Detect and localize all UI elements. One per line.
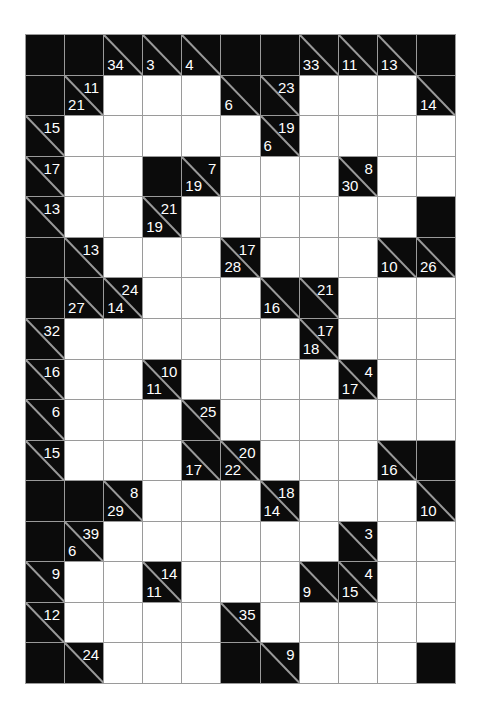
entry-cell[interactable] (182, 603, 220, 643)
entry-cell[interactable] (378, 116, 416, 156)
entry-cell[interactable] (104, 400, 142, 440)
entry-cell[interactable] (65, 319, 103, 359)
entry-cell[interactable] (417, 116, 455, 156)
entry-cell[interactable] (143, 643, 181, 683)
entry-cell[interactable] (261, 522, 299, 562)
entry-cell[interactable] (378, 643, 416, 683)
entry-cell[interactable] (378, 400, 416, 440)
entry-cell[interactable] (339, 197, 377, 237)
entry-cell[interactable] (221, 157, 259, 197)
entry-cell[interactable] (182, 481, 220, 521)
entry-cell[interactable] (261, 319, 299, 359)
entry-cell[interactable] (300, 522, 338, 562)
entry-cell[interactable] (143, 76, 181, 116)
entry-cell[interactable] (104, 157, 142, 197)
entry-cell[interactable] (261, 157, 299, 197)
entry-cell[interactable] (182, 238, 220, 278)
entry-cell[interactable] (261, 441, 299, 481)
entry-cell[interactable] (300, 116, 338, 156)
entry-cell[interactable] (104, 319, 142, 359)
entry-cell[interactable] (339, 643, 377, 683)
entry-cell[interactable] (104, 603, 142, 643)
entry-cell[interactable] (143, 522, 181, 562)
entry-cell[interactable] (378, 157, 416, 197)
entry-cell[interactable] (143, 116, 181, 156)
entry-cell[interactable] (339, 278, 377, 318)
entry-cell[interactable] (300, 360, 338, 400)
entry-cell[interactable] (65, 562, 103, 602)
entry-cell[interactable] (143, 400, 181, 440)
entry-cell[interactable] (221, 197, 259, 237)
entry-cell[interactable] (143, 278, 181, 318)
entry-cell[interactable] (300, 400, 338, 440)
entry-cell[interactable] (339, 400, 377, 440)
entry-cell[interactable] (378, 197, 416, 237)
entry-cell[interactable] (417, 157, 455, 197)
entry-cell[interactable] (300, 643, 338, 683)
entry-cell[interactable] (104, 197, 142, 237)
entry-cell[interactable] (261, 603, 299, 643)
entry-cell[interactable] (378, 76, 416, 116)
entry-cell[interactable] (417, 400, 455, 440)
entry-cell[interactable] (221, 562, 259, 602)
entry-cell[interactable] (261, 360, 299, 400)
entry-cell[interactable] (65, 197, 103, 237)
entry-cell[interactable] (65, 400, 103, 440)
entry-cell[interactable] (182, 319, 220, 359)
entry-cell[interactable] (378, 319, 416, 359)
entry-cell[interactable] (339, 238, 377, 278)
entry-cell[interactable] (65, 157, 103, 197)
entry-cell[interactable] (104, 562, 142, 602)
entry-cell[interactable] (417, 360, 455, 400)
entry-cell[interactable] (143, 238, 181, 278)
entry-cell[interactable] (221, 360, 259, 400)
entry-cell[interactable] (221, 481, 259, 521)
entry-cell[interactable] (339, 76, 377, 116)
entry-cell[interactable] (378, 562, 416, 602)
entry-cell[interactable] (221, 116, 259, 156)
entry-cell[interactable] (339, 319, 377, 359)
entry-cell[interactable] (104, 76, 142, 116)
entry-cell[interactable] (65, 441, 103, 481)
entry-cell[interactable] (221, 400, 259, 440)
entry-cell[interactable] (104, 441, 142, 481)
entry-cell[interactable] (300, 481, 338, 521)
entry-cell[interactable] (143, 481, 181, 521)
entry-cell[interactable] (104, 643, 142, 683)
entry-cell[interactable] (182, 522, 220, 562)
entry-cell[interactable] (182, 562, 220, 602)
entry-cell[interactable] (104, 522, 142, 562)
entry-cell[interactable] (339, 441, 377, 481)
entry-cell[interactable] (65, 360, 103, 400)
entry-cell[interactable] (300, 157, 338, 197)
entry-cell[interactable] (104, 360, 142, 400)
entry-cell[interactable] (143, 603, 181, 643)
entry-cell[interactable] (261, 197, 299, 237)
entry-cell[interactable] (417, 603, 455, 643)
entry-cell[interactable] (378, 360, 416, 400)
entry-cell[interactable] (261, 562, 299, 602)
entry-cell[interactable] (300, 197, 338, 237)
entry-cell[interactable] (221, 319, 259, 359)
entry-cell[interactable] (339, 116, 377, 156)
entry-cell[interactable] (182, 116, 220, 156)
entry-cell[interactable] (65, 603, 103, 643)
entry-cell[interactable] (104, 116, 142, 156)
entry-cell[interactable] (417, 562, 455, 602)
entry-cell[interactable] (182, 643, 220, 683)
entry-cell[interactable] (378, 278, 416, 318)
entry-cell[interactable] (339, 603, 377, 643)
entry-cell[interactable] (182, 360, 220, 400)
entry-cell[interactable] (417, 522, 455, 562)
entry-cell[interactable] (65, 116, 103, 156)
entry-cell[interactable] (378, 522, 416, 562)
entry-cell[interactable] (221, 278, 259, 318)
entry-cell[interactable] (339, 481, 377, 521)
entry-cell[interactable] (417, 278, 455, 318)
entry-cell[interactable] (143, 441, 181, 481)
entry-cell[interactable] (104, 238, 142, 278)
entry-cell[interactable] (261, 400, 299, 440)
entry-cell[interactable] (300, 603, 338, 643)
entry-cell[interactable] (378, 603, 416, 643)
entry-cell[interactable] (182, 197, 220, 237)
